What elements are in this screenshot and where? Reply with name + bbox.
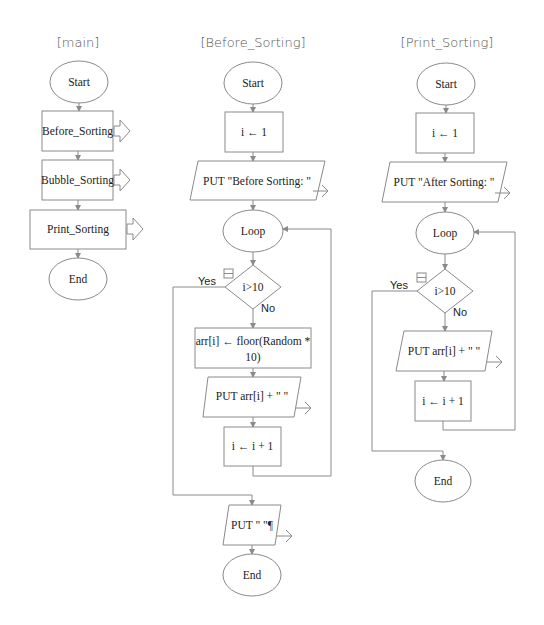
no-label: No	[453, 306, 467, 318]
call-arrow-icon	[114, 169, 130, 191]
flowchart-canvas: [main] Start Before_Sorting Bubble_Sorti…	[0, 0, 544, 625]
svg-text:i>10: i>10	[242, 281, 263, 293]
before-init-node[interactable]: i ← 1	[225, 112, 283, 152]
main-call-print-sorting[interactable]: Print_Sorting	[30, 210, 143, 249]
main-flowchart: [main] Start Before_Sorting Bubble_Sorti…	[30, 35, 143, 300]
main-call-bubble-sorting[interactable]: Bubble_Sorting	[41, 160, 130, 200]
collapse-icon[interactable]	[417, 273, 426, 282]
svg-text:Start: Start	[435, 78, 458, 90]
print-sorting-flowchart: [Print_Sorting] Start i ← 1 PUT "After S…	[372, 35, 515, 502]
print-sorting-title: [Print_Sorting]	[401, 35, 494, 50]
svg-text:PUT arr[i] + " ": PUT arr[i] + " "	[408, 345, 481, 357]
print-loop-node[interactable]: Loop	[416, 212, 474, 254]
svg-text:Bubble_Sorting: Bubble_Sorting	[41, 174, 114, 187]
call-arrow-icon	[127, 218, 143, 240]
print-condition-node[interactable]: i>10 Yes No	[390, 269, 473, 318]
no-label: No	[261, 302, 275, 314]
print-init-node[interactable]: i ← 1	[416, 113, 474, 153]
before-start-node[interactable]: Start	[224, 62, 282, 104]
main-start-node[interactable]: Start	[50, 61, 108, 103]
svg-text:i ← i + 1: i ← i + 1	[232, 440, 274, 452]
svg-text:i ← i + 1: i ← i + 1	[422, 395, 464, 407]
output-arrow-icon	[487, 356, 502, 368]
call-arrow-icon	[114, 120, 130, 142]
before-increment-node[interactable]: i ← i + 1	[224, 427, 281, 466]
main-title: [main]	[57, 35, 100, 50]
svg-text:Before_Sorting: Before_Sorting	[42, 125, 113, 138]
svg-text:PUT "Before Sorting: ": PUT "Before Sorting: "	[203, 175, 311, 188]
svg-text:arr[i] ← floor(Random *: arr[i] ← floor(Random *	[196, 335, 311, 348]
print-end-node[interactable]: End	[415, 460, 471, 502]
svg-text:End: End	[243, 569, 262, 581]
output-arrow-icon	[296, 402, 311, 414]
before-condition-node[interactable]: i>10 Yes No	[198, 265, 281, 314]
print-output-header[interactable]: PUT "After Sorting: "	[382, 162, 510, 202]
svg-text:PUT " "¶: PUT " "¶	[231, 519, 274, 531]
collapse-icon[interactable]	[224, 269, 233, 278]
print-increment-node[interactable]: i ← i + 1	[415, 381, 471, 421]
svg-text:i>10: i>10	[434, 285, 455, 297]
output-arrow-icon	[277, 530, 292, 542]
main-end-node[interactable]: End	[49, 258, 107, 300]
svg-text:PUT "After Sorting: ": PUT "After Sorting: "	[394, 176, 495, 189]
before-sorting-title: [Before_Sorting]	[200, 35, 305, 50]
svg-text:Loop: Loop	[433, 227, 458, 240]
svg-text:10): 10)	[245, 351, 261, 364]
before-loop-node[interactable]: Loop	[223, 210, 283, 252]
yes-label: Yes	[198, 275, 216, 287]
svg-text:i ← 1: i ← 1	[432, 127, 458, 139]
before-sorting-flowchart: [Before_Sorting] Start i ← 1 PUT "Before…	[173, 35, 331, 596]
svg-text:End: End	[69, 273, 88, 285]
svg-text:Print_Sorting: Print_Sorting	[47, 223, 109, 236]
svg-text:Start: Start	[242, 77, 265, 89]
before-output-newline[interactable]: PUT " "¶	[223, 505, 292, 545]
svg-text:Loop: Loop	[241, 225, 266, 238]
before-end-node[interactable]: End	[223, 554, 281, 596]
yes-label: Yes	[390, 279, 408, 291]
svg-text:PUT arr[i] + " ": PUT arr[i] + " "	[216, 390, 289, 402]
before-assign-node[interactable]: arr[i] ← floor(Random * 10)	[195, 328, 311, 368]
svg-text:End: End	[434, 475, 453, 487]
print-output-element[interactable]: PUT arr[i] + " "	[396, 331, 502, 371]
before-output-element[interactable]: PUT arr[i] + " "	[203, 377, 311, 417]
print-start-node[interactable]: Start	[417, 63, 475, 105]
before-output-header[interactable]: PUT "Before Sorting: "	[190, 161, 328, 200]
main-call-before-sorting[interactable]: Before_Sorting	[42, 111, 130, 151]
svg-text:i ← 1: i ← 1	[241, 126, 267, 138]
svg-text:Start: Start	[68, 76, 91, 88]
